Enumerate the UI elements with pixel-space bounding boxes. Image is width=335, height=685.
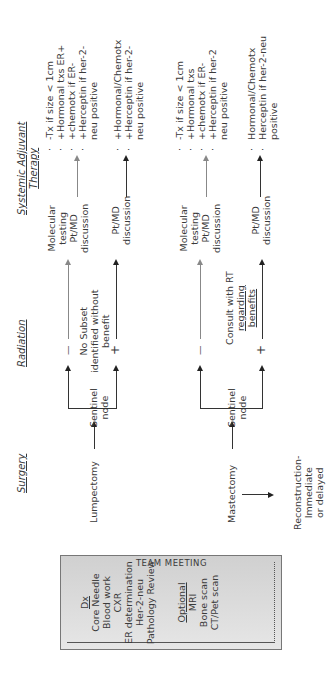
arrow-line [232, 425, 233, 449]
dx-item: Core Needle [90, 556, 101, 649]
arrow-right-icon [65, 259, 71, 265]
arrow-right-icon [259, 365, 265, 371]
arrow-right-icon [197, 259, 203, 265]
team-meeting-label: TEAM MEETING [136, 558, 207, 569]
dx-item: Blood work [101, 556, 112, 649]
therapy-item: -Tx if size < 1cm [174, 40, 185, 151]
note-line: identified without [89, 290, 100, 374]
therapy-item: +chemotx if ER- [66, 30, 77, 151]
target-line: Pt/MD [110, 196, 121, 245]
target-line: Molecular [46, 204, 57, 253]
target-line: discussion [261, 196, 272, 245]
arrow-right-icon [257, 155, 263, 161]
arrow-right-icon [197, 365, 203, 371]
lump-plus-sign: + [110, 345, 121, 355]
header-systemic-line1: Systemic Adjuvant [16, 122, 28, 215]
lump-minus-sign: — [62, 346, 73, 356]
arrow-right-icon [65, 365, 71, 371]
arrow-right-icon [203, 155, 209, 161]
therapy-item: Herceptin if her-2-neu positive [257, 30, 279, 151]
target-line: Pt/MD [200, 204, 211, 253]
note-line: benefits [246, 271, 257, 345]
optional-item: CT/Pet scan [209, 556, 220, 649]
treatment-flow-diagram: Dx Core Needle Blood work CXR ER determi… [0, 0, 335, 685]
branch-line [262, 369, 263, 409]
note-line: benefit [100, 290, 111, 374]
dx-item: ER determination [123, 556, 134, 649]
branch-line [200, 408, 262, 409]
target-line: Molecular [178, 204, 189, 253]
optional-item: Bone scan [198, 556, 209, 649]
therapy-item: +chemotx if ER- [196, 40, 207, 151]
lumpectomy-label: Lumpectomy [88, 461, 99, 523]
arrow-right-icon [113, 365, 119, 371]
header-surgery: Surgery [16, 454, 27, 493]
mast-pt-md-discussion: Pt/MD discussion [250, 196, 272, 245]
diagnosis-box: Dx Core Needle Blood work CXR ER determi… [60, 555, 282, 650]
mast-radiation-note: Consult with RT regarding benefits [224, 271, 257, 345]
reconstruction-label: Reconstruction- Immediate or delayed [292, 455, 325, 530]
diagnosis-content: Dx Core Needle Blood work CXR ER determi… [79, 556, 220, 649]
therapy-item: +Hormonal/Chemotx [112, 30, 123, 151]
arrow-right-icon [113, 259, 119, 265]
therapy-item: +Herceptin if her-2 neu positive [207, 40, 229, 151]
dx-item: Her-2-neu [134, 556, 145, 649]
therapy-item: -Tx if size < 1cm [44, 30, 55, 151]
lump-molecular-testing: Molecular testing Pt/MD discussion [46, 204, 90, 253]
branch-line [126, 159, 127, 197]
target-line: testing [57, 204, 68, 253]
lump-pt-md-discussion: Pt/MD discussion [110, 196, 132, 245]
mastectomy-label: Mastectomy [226, 465, 237, 523]
lump-plus-therapy-list: +Hormonal/Chemotx +Herceptin if her-2-ne… [112, 30, 145, 151]
therapy-item: Hormonal/Chemotx [246, 30, 257, 151]
target-line: Pt/MD [250, 196, 261, 245]
branch-line [116, 263, 117, 339]
arrow-line [242, 494, 268, 495]
branch-line [68, 369, 69, 409]
lump-radiation-note: No Subset identified without benefit [78, 290, 111, 374]
branch-line [260, 159, 261, 197]
therapy-item: +Hormonal txs ER+ [55, 30, 66, 151]
mast-minus-therapy-list: -Tx if size < 1cm +Hormonal txs +chemotx… [174, 40, 229, 151]
optional-item: MRI [187, 556, 198, 649]
target-line: testing [189, 204, 200, 253]
branch-line [116, 369, 117, 409]
header-radiation: Radiation [16, 320, 27, 368]
arrow-line [94, 425, 95, 449]
branch-line [206, 159, 207, 197]
target-line: discussion [121, 196, 132, 245]
branch-line [77, 159, 78, 197]
note-line: regarding [235, 271, 246, 345]
branch-line [200, 263, 201, 339]
reconstruction-line: Reconstruction- [292, 455, 303, 530]
dx-item: CXR [112, 556, 123, 649]
mast-plus-sign: + [256, 345, 267, 355]
arrow-right-icon [74, 155, 80, 161]
arrow-right-icon [123, 155, 129, 161]
target-line: discussion [79, 204, 90, 253]
header-systemic: Systemic Adjuvant Therapy [16, 122, 40, 215]
branch-line [68, 263, 69, 339]
reconstruction-line: or delayed [314, 455, 325, 530]
branch-line [68, 408, 116, 409]
mast-minus-sign: — [194, 346, 205, 356]
lump-minus-therapy-list: -Tx if size < 1cm +Hormonal txs ER+ +che… [44, 30, 99, 151]
arrow-down-icon [268, 492, 274, 498]
therapy-item: +Herceptin if her-2-neu positive [77, 30, 99, 151]
arrow-right-icon [259, 259, 265, 265]
note-line: Consult with RT [224, 271, 235, 345]
mast-molecular-testing: Molecular testing Pt/MD discussion [178, 204, 222, 253]
dx-title: Dx [79, 556, 90, 649]
reconstruction-line: Immediate [303, 455, 314, 530]
dx-item: Pathology Review [145, 556, 156, 649]
branch-line [262, 263, 263, 339]
branch-line [200, 369, 201, 409]
target-line: Pt/MD [68, 204, 79, 253]
header-systemic-line2: Therapy [28, 122, 40, 215]
therapy-item: +Hormonal txs [185, 40, 196, 151]
optional-title: Optional [176, 556, 187, 649]
therapy-item: +Herceptin if her-2-neu positive [123, 30, 145, 151]
note-line: No Subset [78, 290, 89, 374]
target-line: discussion [211, 204, 222, 253]
mast-plus-therapy-list: Hormonal/Chemotx Herceptin if her-2-neu … [246, 30, 279, 151]
